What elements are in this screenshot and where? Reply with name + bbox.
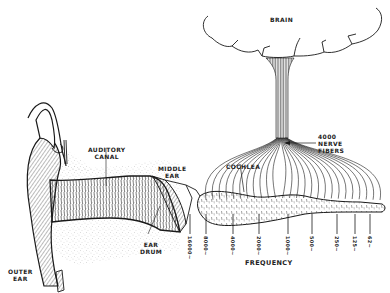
frequency-tick-label: 62~ <box>367 236 373 248</box>
cochlea <box>198 191 385 225</box>
nerve-fiber <box>282 138 292 198</box>
auditory-canal-label: AUDITORY CANAL <box>88 146 126 160</box>
brain-label: BRAIN <box>270 16 293 23</box>
frequency-tick-label: 4000~ <box>230 236 236 256</box>
nerve-fiber <box>281 138 285 198</box>
frequency-tick-label: 500~ <box>309 236 315 252</box>
cochlea-label: COCHLEA <box>226 163 260 170</box>
frequency-tick-label: 250~ <box>334 236 340 252</box>
frequency-tick-label: 1000~ <box>285 236 291 256</box>
nerve-bundle <box>266 58 294 138</box>
frequency-tick-label: 2000~ <box>256 236 262 256</box>
ear-drum-label: EAR DRUM <box>140 241 162 255</box>
frequency-tick-label: 125~ <box>352 236 358 252</box>
frequency-tick-label: 8000~ <box>203 236 209 256</box>
frequency-tick-label: 16000~ <box>187 236 193 259</box>
ear-diagram: BRAIN 4000 NERVE FIBERS AUDITORY CANAL M… <box>0 0 390 293</box>
nerve-fiber <box>282 138 298 198</box>
frequency-label: FREQUENCY <box>245 260 293 267</box>
nerve-fibers-label: 4000 NERVE FIBERS <box>318 133 344 154</box>
middle-ear-label: MIDDLE EAR <box>158 165 187 179</box>
outer-ear-label: OUTER EAR <box>8 268 33 282</box>
